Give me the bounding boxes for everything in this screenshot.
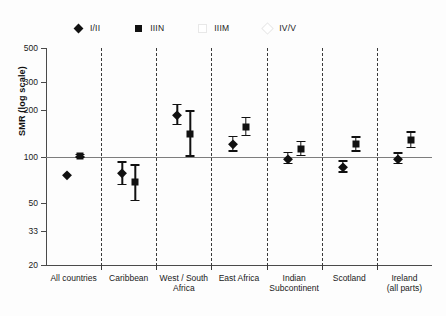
data-point-with-error-bar [295,141,307,157]
legend-label: IV/V [279,23,296,33]
open-diamond-icon [261,22,273,34]
x-axis-tick [101,265,102,270]
data-point-with-error-bar [282,152,294,165]
error-bar-cap-lower [351,150,360,151]
x-axis-tick-label: Scotland [322,273,377,283]
y-axis-tick [41,231,46,232]
legend-label: IIIN [150,23,164,33]
error-bar-cap-lower [131,200,140,201]
x-axis-tick [322,265,323,270]
error-bar-cap-upper [296,141,305,142]
y-axis-tick [41,203,46,204]
filled-diamond-icon [72,22,84,34]
y-axis-tick [41,82,46,83]
marker-diamond [228,140,237,149]
legend-item-i-ii: I/II [72,22,100,34]
data-point-with-error-bar [116,161,128,185]
marker-square [352,141,359,148]
error-bar-cap-lower [296,155,305,156]
error-bar-cap-lower [118,184,127,185]
open-square-icon [196,22,208,34]
marker-square [77,152,84,159]
category-separator [377,48,378,266]
marker-diamond [338,162,347,171]
y-axis-tick [41,265,46,266]
data-point-with-error-bar [129,164,141,201]
category-separator [267,48,268,266]
x-axis-tick-label: Caribbean [101,273,156,283]
filled-square-icon [132,22,144,34]
error-bar-cap-lower [406,147,415,148]
x-axis-tick [377,265,378,270]
data-point-with-error-bar [184,110,196,157]
legend-label: I/II [90,23,100,33]
data-point-with-error-bar [392,152,404,164]
category-separator [101,48,102,266]
y-axis-tick-label: 33 [12,226,38,236]
error-bar-cap-upper [118,161,127,162]
y-axis-tick-label: 20 [12,260,38,270]
x-axis-tick-label: Indian Subcontinent [267,273,322,293]
chart-figure: I/II IIIN IIIM IV/V SMR (log scale) 5003… [0,0,446,316]
error-bar-cap-upper [186,110,195,111]
chart-legend: I/II IIIN IIIM IV/V [72,20,328,36]
data-point-with-error-bar [171,104,183,126]
marker-diamond [62,170,71,179]
error-bar-cap-lower [173,124,182,125]
x-axis-tick [156,265,157,270]
data-point-with-error-bar [337,160,349,173]
x-axis-line [46,265,432,266]
error-bar-cap-lower [228,150,237,151]
legend-item-iiim: IIIM [196,22,229,34]
error-bar-cap-upper [131,164,140,165]
marker-square [407,136,414,143]
y-axis-tick-label: 300 [12,77,38,87]
x-axis-tick-label: West / South Africa [156,273,211,293]
error-bar-cap-lower [186,155,195,156]
data-point-with-error-bar [350,136,362,152]
data-point-with-error-bar [227,136,239,153]
data-point-with-error-bar [240,117,252,137]
reference-line [46,157,432,158]
error-bar-cap-upper [406,131,415,132]
error-bar-cap-lower [241,135,250,136]
x-axis-tick-label: Ireland (all parts) [377,273,432,293]
category-separator [211,48,212,266]
error-bar-cap-upper [173,104,182,105]
data-point-with-error-bar [74,154,86,159]
marker-diamond [173,110,182,119]
legend-label: IIIM [214,23,229,33]
x-axis-tick-label: East Africa [211,273,266,283]
data-point-with-error-bar [405,131,417,148]
legend-item-iiin: IIIN [132,22,164,34]
y-axis-tick [41,48,46,49]
y-axis-tick-label: 200 [12,105,38,115]
marker-square [297,145,304,152]
data-point-with-error-bar [61,174,73,176]
legend-item-iv-v: IV/V [261,22,296,34]
y-axis-tick-label: 500 [12,43,38,53]
error-bar-cap-upper [241,117,250,118]
error-bar-cap-upper [228,136,237,137]
x-axis-tick-label: All countries [46,273,101,283]
error-bar-cap-upper [283,152,292,153]
x-axis-tick [211,265,212,270]
category-separator [156,48,157,266]
y-axis-tick [41,110,46,111]
error-bar-cap-upper [351,136,360,137]
category-separator [322,48,323,266]
marker-diamond [118,169,127,178]
y-axis-tick-label: 100 [12,152,38,162]
marker-square [242,123,249,130]
y-axis-tick-label: 50 [12,198,38,208]
marker-square [187,130,194,137]
marker-square [132,179,139,186]
x-axis-tick [267,265,268,270]
